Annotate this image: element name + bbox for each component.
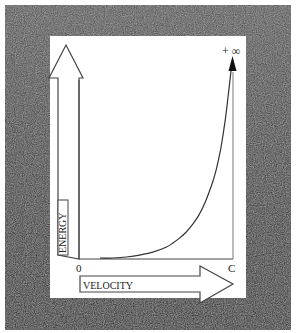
x-axis-label: VELOCITY: [83, 280, 133, 291]
diagram: ENERGY VELOCITY 0 C + ∞: [0, 0, 298, 333]
y-axis-label: ENERGY: [57, 212, 68, 253]
x-tick-zero: 0: [76, 262, 82, 274]
infinity-annotation: + ∞: [222, 44, 240, 58]
energy-velocity-chart: ENERGY VELOCITY 0 C + ∞: [0, 0, 298, 333]
x-tick-c: C: [228, 262, 235, 274]
